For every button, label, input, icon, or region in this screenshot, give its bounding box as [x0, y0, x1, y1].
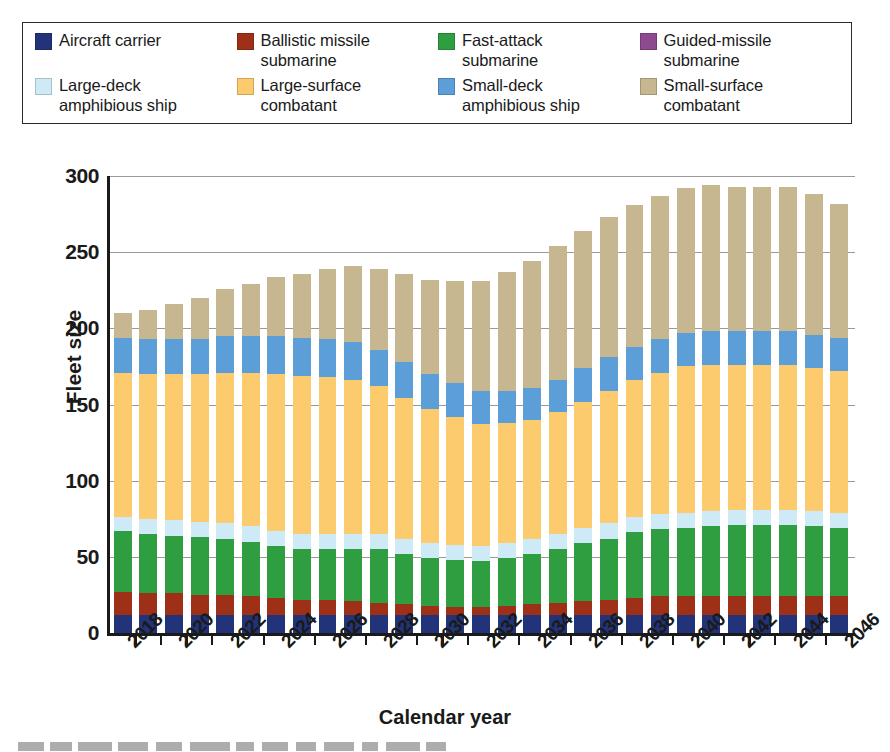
bar-segment [114, 517, 132, 531]
bar-2036[interactable] [574, 231, 592, 633]
bar-2019[interactable] [139, 310, 157, 633]
bar-segment [267, 336, 285, 374]
bar-segment [293, 376, 311, 534]
artifact-chip [324, 742, 354, 751]
bar-segment [344, 534, 362, 549]
bar-2035[interactable] [549, 246, 567, 633]
bar-segment [319, 600, 337, 615]
bar-segment [395, 539, 413, 554]
bar-segment [600, 357, 618, 391]
bar-segment [191, 537, 209, 595]
legend-item-aircraft-carrier: Aircraft carrier [35, 31, 237, 70]
bar-segment [216, 336, 234, 373]
bar-2045[interactable] [805, 194, 823, 633]
bar-segment [293, 534, 311, 549]
bar-2026[interactable] [319, 269, 337, 633]
bar-2046[interactable] [830, 204, 848, 634]
bar-2038[interactable] [626, 205, 644, 633]
bar-2034[interactable] [523, 261, 541, 633]
legend-label-large-surface-combatant: Large-surface combatant [261, 76, 362, 115]
legend-row-2: Large-deck amphibious ship Large-surface… [35, 76, 841, 115]
bar-segment [523, 539, 541, 554]
bar-segment [830, 338, 848, 372]
bar-2042[interactable] [728, 187, 746, 633]
bar-2031[interactable] [446, 281, 464, 633]
legend-item-ballistic-missile-submarine: Ballistic missile submarine [237, 31, 439, 70]
bar-segment [267, 598, 285, 615]
y-axis-tick-labels: 050100150200250300 [35, 176, 99, 633]
bar-segment [600, 391, 618, 524]
bar-2030[interactable] [421, 280, 439, 633]
bar-segment [677, 513, 695, 528]
bar-segment [728, 525, 746, 597]
bar-2043[interactable] [753, 187, 771, 633]
bar-segment [446, 545, 464, 560]
bar-segment [216, 595, 234, 615]
bar-segment [498, 558, 516, 605]
bar-segment [549, 549, 567, 602]
bar-segment [267, 277, 285, 336]
bar-segment [421, 606, 439, 615]
bar-2022[interactable] [216, 289, 234, 633]
bar-segment [651, 196, 669, 339]
artifact-chip [386, 742, 420, 751]
bar-segment [165, 593, 183, 614]
bar-segment [319, 549, 337, 599]
bar-segment [139, 519, 157, 534]
bar-segment [728, 596, 746, 614]
bar-2020[interactable] [165, 304, 183, 633]
bar-segment [574, 231, 592, 368]
bar-segment [139, 339, 157, 374]
legend-label-aircraft-carrier: Aircraft carrier [59, 31, 161, 51]
bar-segment [472, 607, 490, 615]
bar-2021[interactable] [191, 298, 209, 633]
bar-segment [805, 368, 823, 511]
artifact-chip [236, 742, 254, 751]
legend-swatch-guided-missile-submarine [640, 33, 657, 50]
bar-segment [293, 549, 311, 599]
bar-2024[interactable] [267, 277, 285, 633]
bar-2032[interactable] [472, 281, 490, 633]
legend-label-large-deck-amphibious-ship: Large-deck amphibious ship [59, 76, 177, 115]
bar-2033[interactable] [498, 272, 516, 633]
bar-segment [344, 266, 362, 342]
bar-2040[interactable] [677, 188, 695, 633]
bar-segment [114, 313, 132, 337]
bar-2023[interactable] [242, 284, 260, 633]
bar-segment [651, 514, 669, 529]
artifact-chip [296, 742, 316, 751]
legend-swatch-fast-attack-submarine [438, 33, 455, 50]
bar-segment [344, 380, 362, 534]
bar-segment [472, 424, 490, 546]
bar-segment [830, 204, 848, 338]
bar-segment [446, 417, 464, 545]
bar-segment [216, 523, 234, 538]
bar-2018[interactable] [114, 313, 132, 633]
bar-segment [549, 412, 567, 534]
bar-segment [370, 549, 388, 602]
bar-segment [165, 304, 183, 339]
bar-segment [677, 333, 695, 367]
y-axis-tick-0: 0 [88, 621, 99, 645]
artifact-chip [156, 742, 182, 751]
bar-segment [728, 510, 746, 525]
bar-2044[interactable] [779, 187, 797, 633]
bar-2027[interactable] [344, 266, 362, 633]
bar-segment [830, 371, 848, 513]
bar-2037[interactable] [600, 217, 618, 633]
bar-2025[interactable] [293, 274, 311, 633]
bar-2028[interactable] [370, 269, 388, 633]
bar-segment [523, 388, 541, 420]
bar-segment [319, 339, 337, 377]
artifact-chip [78, 742, 112, 751]
bar-segment [421, 558, 439, 605]
legend-swatch-large-deck-amphibious-ship [35, 78, 52, 95]
bar-segment [574, 601, 592, 615]
bar-2029[interactable] [395, 274, 413, 633]
bar-segment [421, 280, 439, 374]
bar-2039[interactable] [651, 196, 669, 633]
bar-segment [805, 526, 823, 596]
bar-2041[interactable] [702, 185, 720, 633]
bar-segment [702, 511, 720, 526]
bar-segment [574, 543, 592, 601]
